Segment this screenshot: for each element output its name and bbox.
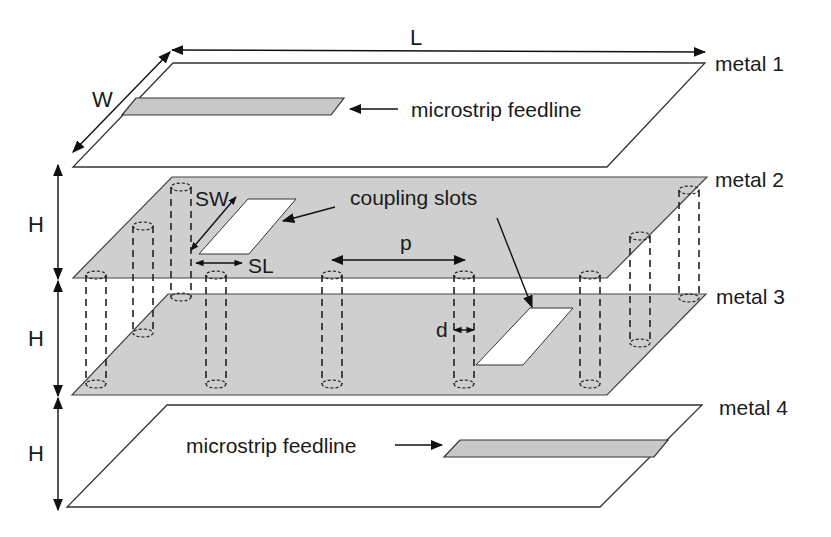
via-pitch-label: p <box>400 231 412 254</box>
length-dimension-arrow <box>172 50 705 52</box>
coupling-slots-label: coupling slots <box>350 186 477 209</box>
metal-3-label: metal 3 <box>716 285 785 308</box>
slot-length-label: SL <box>248 254 274 277</box>
top-feedline-label: microstrip feedline <box>411 98 581 121</box>
metal-1-label: metal 1 <box>715 52 784 75</box>
height-label-2: H <box>28 326 44 351</box>
metal-1-layer <box>73 63 705 167</box>
width-label: W <box>92 87 113 112</box>
slot-width-label: SW <box>195 187 229 210</box>
multilayer-structure-diagram: L W H H H SW SL p d metal 1 metal 2 meta… <box>0 0 831 537</box>
bottom-feedline-label: microstrip feedline <box>186 434 356 457</box>
height-label-1: H <box>28 212 44 237</box>
bottom-microstrip-feedline <box>444 440 668 457</box>
via <box>679 186 699 302</box>
top-microstrip-feedline <box>122 98 344 115</box>
height-label-3: H <box>28 441 44 466</box>
metal-4-layer <box>67 405 702 507</box>
length-label: L <box>410 25 422 50</box>
metal-2-label: metal 2 <box>715 168 784 191</box>
metal-4-label: metal 4 <box>719 396 788 419</box>
metal-3-layer <box>72 294 706 395</box>
via-diameter-label: d <box>436 318 448 341</box>
